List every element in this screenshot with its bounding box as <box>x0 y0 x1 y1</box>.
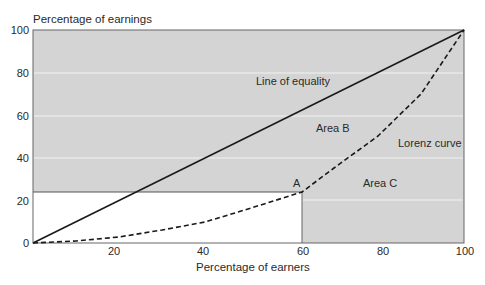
y-axis-title: Percentage of earnings <box>33 14 152 26</box>
annotation-area-b: Area B <box>316 123 350 134</box>
annotation-lorenz-curve: Lorenz curve <box>398 138 462 149</box>
x-axis-title: Percentage of earners <box>196 262 310 274</box>
annotation-area-c: Area C <box>363 178 397 189</box>
y-tick-20: 20 <box>5 196 29 207</box>
y-tick-80: 80 <box>5 68 29 79</box>
x-tick-40: 40 <box>188 246 218 257</box>
x-tick-100: 100 <box>450 246 480 257</box>
white-rectangle-region <box>33 192 302 243</box>
y-tick-60: 60 <box>5 111 29 122</box>
y-tick-40: 40 <box>5 153 29 164</box>
x-tick-20: 20 <box>99 246 129 257</box>
x-tick-80: 80 <box>368 246 398 257</box>
lorenz-chart: Percentage of earnings Percentage of ear… <box>0 0 485 285</box>
annotation-point-a: A <box>293 178 300 189</box>
y-tick-0: 0 <box>5 238 29 249</box>
y-tick-100: 100 <box>5 25 29 36</box>
x-tick-60: 60 <box>288 246 318 257</box>
annotation-line-of-equality: Line of equality <box>256 76 330 87</box>
